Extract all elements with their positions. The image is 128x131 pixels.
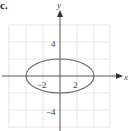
x-axis-arrow-icon	[116, 73, 123, 79]
x-tick-neg2: −2	[37, 80, 47, 90]
y-axis-label: y	[56, 0, 61, 10]
y-tick-pos4: 4	[51, 39, 56, 49]
axes	[2, 12, 120, 131]
x-tick-pos2: 2	[73, 80, 78, 90]
x-axis-label: x	[123, 72, 128, 82]
y-axis-arrow-icon	[57, 10, 63, 17]
graph: c. y x −2 2 4 −4	[0, 0, 128, 131]
y-tick-neg4: −4	[46, 107, 56, 117]
part-label: c.	[0, 0, 8, 11]
